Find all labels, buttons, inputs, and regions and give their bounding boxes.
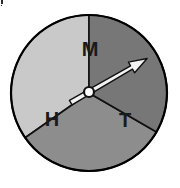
- needle-hub-center: [87, 90, 92, 95]
- slice-label-h: H: [45, 108, 59, 130]
- scan-artifact: [1, 0, 3, 4]
- scan-artifact: [1, 5, 2, 6]
- gauge-figure: H M T: [0, 0, 180, 188]
- slice-label-t: T: [119, 109, 131, 131]
- slice-label-m: M: [82, 38, 99, 60]
- pie-gauge-chart: H M T: [0, 0, 180, 188]
